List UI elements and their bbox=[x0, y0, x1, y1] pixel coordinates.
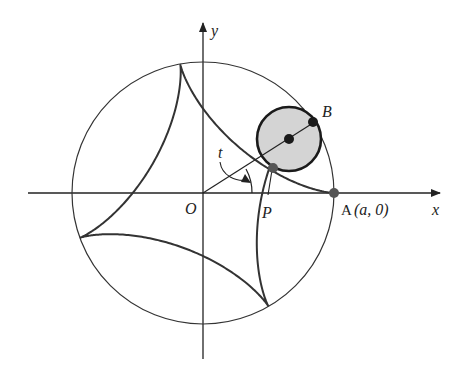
origin-label: O bbox=[185, 200, 197, 217]
point-a bbox=[329, 188, 339, 198]
y-axis-label: y bbox=[209, 22, 219, 40]
point-b-label: B bbox=[322, 103, 332, 120]
point-b bbox=[308, 117, 318, 127]
hypocycloid-diagram: y x O P A (a, 0) B t bbox=[0, 0, 461, 371]
rolling-circle-center bbox=[284, 134, 294, 144]
point-p-label: P bbox=[261, 204, 272, 221]
point-a-coords: (a, 0) bbox=[354, 201, 389, 219]
point-p bbox=[268, 163, 278, 173]
angle-t-label: t bbox=[218, 144, 223, 161]
p-leader-line bbox=[268, 170, 272, 195]
point-a-label: A bbox=[341, 202, 352, 218]
x-axis-label: x bbox=[431, 201, 439, 218]
